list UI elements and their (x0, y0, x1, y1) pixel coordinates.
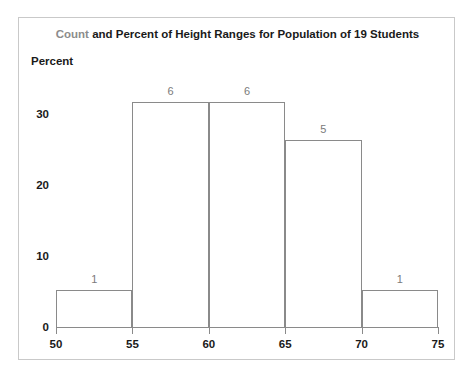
x-tick-mark (285, 327, 286, 334)
chart-title-highlight: Count (56, 28, 89, 40)
histogram-bar[interactable] (132, 102, 208, 327)
y-axis-title: Percent (31, 55, 73, 67)
bar-count-label: 1 (91, 273, 97, 285)
y-tick-label: 10 (36, 250, 49, 262)
y-tick-label: 20 (36, 179, 49, 191)
bar-count-label: 1 (397, 273, 403, 285)
chart-title-rest: and Percent of Height Ranges for Populat… (89, 28, 419, 40)
histogram-bar[interactable] (209, 102, 285, 327)
x-tick-label: 70 (355, 338, 368, 350)
x-axis-line (56, 327, 438, 328)
bar-count-label: 5 (320, 123, 326, 135)
x-tick-mark (438, 327, 439, 334)
y-tick-label: 30 (36, 108, 49, 120)
x-tick-label: 50 (50, 338, 63, 350)
plot-area: 0102030 505560657075 16651 (56, 78, 438, 327)
x-tick-mark (56, 327, 57, 334)
histogram-bar[interactable] (285, 140, 361, 327)
x-tick-label: 65 (279, 338, 292, 350)
y-tick-label: 0 (43, 321, 49, 333)
bar-count-label: 6 (244, 85, 250, 97)
chart-title: Count and Percent of Height Ranges for P… (19, 28, 456, 40)
histogram-bar[interactable] (56, 290, 132, 327)
x-tick-label: 55 (126, 338, 139, 350)
x-tick-label: 75 (432, 338, 445, 350)
x-tick-mark (209, 327, 210, 334)
bar-count-label: 6 (168, 85, 174, 97)
x-tick-mark (362, 327, 363, 334)
x-tick-mark (132, 327, 133, 334)
chart-frame: Count and Percent of Height Ranges for P… (18, 17, 455, 360)
histogram-bar[interactable] (362, 290, 438, 327)
x-tick-label: 60 (202, 338, 215, 350)
